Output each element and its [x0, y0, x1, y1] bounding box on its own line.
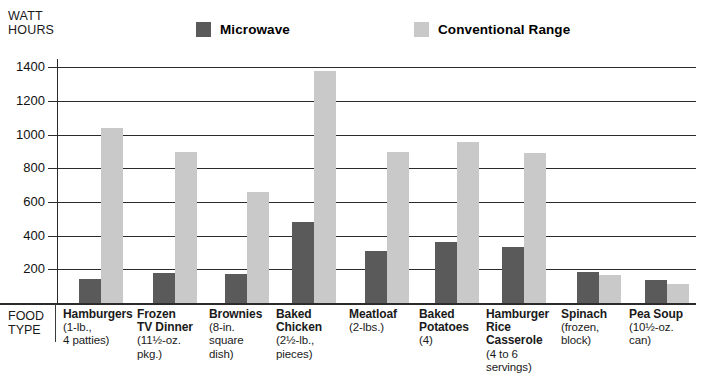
bar — [667, 284, 689, 303]
bar — [101, 128, 123, 303]
bar — [79, 279, 101, 303]
category-label: Pea Soup(10½-oz. can) — [629, 308, 701, 348]
y-tick-mark — [48, 236, 57, 237]
category-name: Hamburger Rice Casserole — [486, 308, 560, 348]
bar-group — [145, 59, 205, 303]
bar — [292, 222, 314, 303]
category-sublabel: (11½-oz. pkg.) — [137, 334, 207, 360]
bar — [175, 152, 197, 303]
category-name: Baked Potatoes — [419, 308, 485, 334]
y-tick-label: 1400 — [0, 59, 45, 74]
bar — [502, 247, 524, 303]
y-tick-label: 200 — [0, 261, 45, 276]
bar-group — [637, 59, 697, 303]
category-divider — [55, 304, 56, 342]
bar-group — [569, 59, 629, 303]
category-name: Pea Soup — [629, 308, 701, 321]
category-name: Frozen TV Dinner — [137, 308, 207, 334]
bar — [387, 152, 409, 303]
legend-item-conventional-range: Conventional Range — [414, 22, 570, 37]
bar — [225, 274, 247, 303]
category-name: Meatloaf — [349, 308, 418, 321]
bar — [314, 71, 336, 303]
bar-group — [284, 59, 344, 303]
category-sublabel: (10½-oz. can) — [629, 321, 701, 347]
category-label: Meatloaf(2-lbs.) — [349, 308, 418, 334]
y-tick-mark — [48, 67, 57, 68]
category-sublabel: (1-lb., 4 patties) — [63, 321, 135, 347]
bar — [153, 273, 175, 303]
y-tick-mark — [48, 202, 57, 203]
category-label: Baked Potatoes(4) — [419, 308, 485, 348]
category-label: Brownies(8-in. square dish) — [209, 308, 275, 361]
y-tick-mark — [48, 168, 57, 169]
category-name: Spinach — [561, 308, 628, 321]
category-sublabel: (2-lbs.) — [349, 321, 418, 334]
legend-swatch-conventional-range — [414, 22, 429, 37]
y-tick-mark — [48, 135, 57, 136]
bar — [247, 192, 269, 303]
bar-group — [357, 59, 417, 303]
legend-item-microwave: Microwave — [196, 22, 290, 37]
y-tick-label: 1200 — [0, 93, 45, 108]
y-tick-label: 600 — [0, 194, 45, 209]
category-sublabel: (4 to 6 servings) — [486, 348, 560, 374]
bar — [365, 251, 387, 303]
y-tick-mark — [48, 101, 57, 102]
legend-label-microwave: Microwave — [220, 22, 290, 37]
y-tick-label: 800 — [0, 160, 45, 175]
legend-swatch-microwave — [196, 22, 211, 37]
category-axis: FOOD TYPE Hamburgers(1-lb., 4 patties)Fr… — [0, 304, 704, 385]
y-tick-label: 1000 — [0, 127, 45, 142]
category-label: Frozen TV Dinner(11½-oz. pkg.) — [137, 308, 207, 361]
y-tick-label: 400 — [0, 228, 45, 243]
category-label: Spinach(frozen, block) — [561, 308, 628, 348]
category-sublabel: (2½-lb., pieces) — [276, 334, 348, 360]
category-name: Hamburgers — [63, 308, 135, 321]
bar-group — [494, 59, 554, 303]
bar — [645, 280, 667, 303]
category-label: Baked Chicken(2½-lb., pieces) — [276, 308, 348, 361]
category-label: Hamburgers(1-lb., 4 patties) — [63, 308, 135, 348]
bar-group — [217, 59, 277, 303]
watt-hours-bar-chart: WATT HOURS Microwave Conventional Range … — [0, 0, 704, 385]
bar — [599, 275, 621, 303]
bar — [457, 142, 479, 303]
x-axis-title: FOOD TYPE — [8, 310, 44, 337]
plot-area: 200400600800100012001400 — [57, 59, 696, 303]
category-label: Hamburger Rice Casserole(4 to 6 servings… — [486, 308, 560, 374]
category-name: Brownies — [209, 308, 275, 321]
bar-groups — [57, 59, 696, 303]
chart-legend: Microwave Conventional Range — [0, 22, 704, 42]
bar — [435, 242, 457, 303]
y-tick-mark — [48, 269, 57, 270]
category-sublabel: (4) — [419, 334, 485, 347]
category-sublabel: (frozen, block) — [561, 321, 628, 347]
category-sublabel: (8-in. square dish) — [209, 321, 275, 361]
legend-label-conventional-range: Conventional Range — [438, 22, 570, 37]
bar — [524, 153, 546, 303]
bar-group — [427, 59, 487, 303]
bar — [577, 272, 599, 303]
bar-group — [71, 59, 131, 303]
category-name: Baked Chicken — [276, 308, 348, 334]
